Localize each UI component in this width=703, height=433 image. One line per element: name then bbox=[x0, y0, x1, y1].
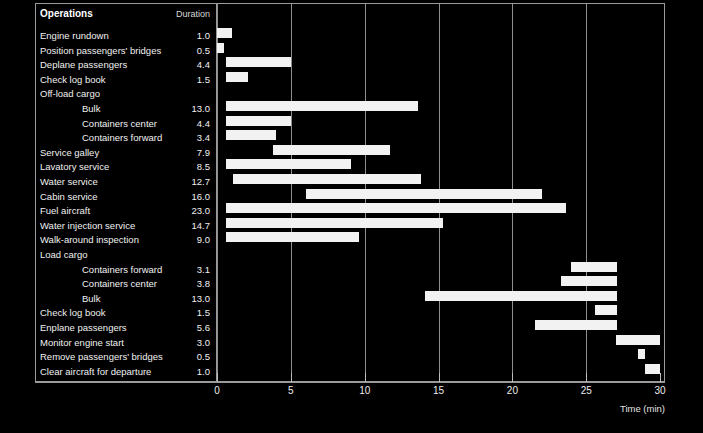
task-duration: 1.5 bbox=[197, 73, 210, 87]
task-label: Cabin service bbox=[40, 190, 98, 204]
task-row: Check log book1.5 bbox=[40, 306, 215, 320]
task-duration: 13.0 bbox=[192, 102, 211, 116]
task-row: Walk-around inspection9.0 bbox=[40, 233, 215, 247]
task-row: Load cargo bbox=[40, 248, 215, 262]
task-row: Monitor engine start3.0 bbox=[40, 336, 215, 350]
task-label: Containers forward bbox=[82, 263, 162, 277]
task-duration: 16.0 bbox=[192, 190, 211, 204]
gridline-20 bbox=[512, 4, 513, 381]
task-label: Bulk bbox=[82, 102, 100, 116]
task-row: Fuel aircraft23.0 bbox=[40, 204, 215, 218]
x-tick-25 bbox=[586, 373, 587, 382]
x-tick-5 bbox=[291, 373, 292, 382]
table-header-row: Operations Duration bbox=[40, 7, 215, 21]
x-tick-0 bbox=[217, 373, 218, 382]
task-row: Containers forward3.4 bbox=[40, 131, 215, 145]
task-duration: 7.9 bbox=[197, 146, 210, 160]
gantt-chart: Operations Duration Engine rundown1.0Pos… bbox=[0, 0, 703, 433]
gridline-10 bbox=[365, 4, 366, 381]
task-label: Water injection service bbox=[40, 219, 135, 233]
task-row: Bulk13.0 bbox=[40, 292, 215, 306]
column-header-duration: Duration bbox=[176, 7, 210, 21]
task-label: Walk-around inspection bbox=[40, 233, 139, 247]
column-header-operations: Operations bbox=[40, 7, 93, 21]
task-label: Containers forward bbox=[82, 131, 162, 145]
task-duration: 0.5 bbox=[197, 44, 210, 58]
task-label: Remove passengers' bridges bbox=[40, 350, 163, 364]
task-label: Enplane passengers bbox=[40, 321, 127, 335]
task-duration: 1.0 bbox=[197, 365, 210, 379]
task-duration: 8.5 bbox=[197, 160, 210, 174]
gridline-5 bbox=[291, 4, 292, 381]
task-label: Check log book bbox=[40, 306, 105, 320]
task-duration: 3.4 bbox=[197, 131, 210, 145]
task-duration: 1.0 bbox=[197, 29, 210, 43]
x-tick-label: 30 bbox=[655, 385, 666, 396]
task-row: Cabin service16.0 bbox=[40, 190, 215, 204]
task-label: Containers center bbox=[82, 117, 157, 131]
task-label: Monitor engine start bbox=[40, 336, 124, 350]
task-duration: 4.4 bbox=[197, 58, 210, 72]
task-label: Load cargo bbox=[40, 248, 88, 262]
column-divider bbox=[216, 3, 217, 382]
task-row: Clear aircraft for departure1.0 bbox=[40, 365, 215, 379]
task-duration: 3.8 bbox=[197, 277, 210, 291]
task-duration: 4.4 bbox=[197, 117, 210, 131]
task-row: Position passengers' bridges0.5 bbox=[40, 44, 215, 58]
task-duration: 13.0 bbox=[192, 292, 211, 306]
task-row: Water injection service14.7 bbox=[40, 219, 215, 233]
task-duration: 23.0 bbox=[192, 204, 211, 218]
gridline-25 bbox=[586, 4, 587, 381]
x-tick-label: 15 bbox=[433, 385, 444, 396]
x-axis-title: Time (min) bbox=[620, 403, 665, 414]
task-row: Service galley7.9 bbox=[40, 146, 215, 160]
task-label: Engine rundown bbox=[40, 29, 109, 43]
task-duration: 12.7 bbox=[192, 175, 211, 189]
task-row: Lavatory service8.5 bbox=[40, 160, 215, 174]
x-tick-label: 25 bbox=[581, 385, 592, 396]
task-duration: 1.5 bbox=[197, 306, 210, 320]
task-row: Deplane passengers4.4 bbox=[40, 58, 215, 72]
task-duration: 14.7 bbox=[192, 219, 211, 233]
x-tick-label: 5 bbox=[288, 385, 294, 396]
task-label: Fuel aircraft bbox=[40, 204, 90, 218]
task-duration: 3.0 bbox=[197, 336, 210, 350]
task-label: Position passengers' bridges bbox=[40, 44, 161, 58]
task-duration: 5.6 bbox=[197, 321, 210, 335]
task-row: Enplane passengers5.6 bbox=[40, 321, 215, 335]
task-label: Clear aircraft for departure bbox=[40, 365, 151, 379]
task-label: Service galley bbox=[40, 146, 99, 160]
task-duration: 3.1 bbox=[197, 263, 210, 277]
x-tick-label: 0 bbox=[214, 385, 220, 396]
task-label: Water service bbox=[40, 175, 98, 189]
x-tick-label: 20 bbox=[507, 385, 518, 396]
task-row: Bulk13.0 bbox=[40, 102, 215, 116]
task-label: Bulk bbox=[82, 292, 100, 306]
task-label: Lavatory service bbox=[40, 160, 109, 174]
task-row: Containers forward3.1 bbox=[40, 263, 215, 277]
task-row: Off-load cargo bbox=[40, 87, 215, 101]
task-label: Containers center bbox=[82, 277, 157, 291]
task-duration: 9.0 bbox=[197, 233, 210, 247]
gridline-15 bbox=[439, 4, 440, 381]
task-row: Containers center3.8 bbox=[40, 277, 215, 291]
task-row: Engine rundown1.0 bbox=[40, 29, 215, 43]
task-row: Remove passengers' bridges0.5 bbox=[40, 350, 215, 364]
task-row: Containers center4.4 bbox=[40, 117, 215, 131]
x-tick-15 bbox=[439, 373, 440, 382]
task-label: Deplane passengers bbox=[40, 58, 127, 72]
x-tick-20 bbox=[512, 373, 513, 382]
x-tick-10 bbox=[365, 373, 366, 382]
gridline-0 bbox=[217, 4, 218, 381]
task-row: Water service12.7 bbox=[40, 175, 215, 189]
task-duration: 0.5 bbox=[197, 350, 210, 364]
x-tick-30 bbox=[660, 373, 661, 382]
x-axis-line bbox=[35, 382, 665, 383]
task-label: Check log book bbox=[40, 73, 105, 87]
operations-label-column: Operations Duration Engine rundown1.0Pos… bbox=[40, 3, 215, 382]
x-tick-label: 10 bbox=[359, 385, 370, 396]
task-label: Off-load cargo bbox=[40, 87, 100, 101]
task-row: Check log book1.5 bbox=[40, 73, 215, 87]
